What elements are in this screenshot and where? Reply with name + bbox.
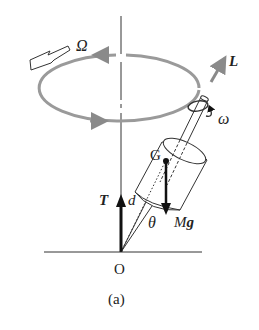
center-of-mass-label: G: [150, 147, 161, 163]
tension-label: T: [99, 192, 109, 208]
angular-momentum-label: L: [228, 53, 238, 69]
distance-label: d: [128, 192, 136, 208]
figure-caption: (a): [108, 291, 125, 308]
weight-g-symbol: g: [186, 214, 195, 230]
precession-orbit: [39, 55, 199, 121]
origin-label: O: [114, 261, 125, 277]
spin-omega-label: ω: [218, 110, 229, 127]
gyroscope-precession-diagram: Ω L G Mg T d θ ω: [0, 0, 259, 330]
precession-direction-arrow: [30, 46, 70, 70]
tension-arrow: [116, 194, 126, 252]
angular-momentum-arrow: [211, 63, 222, 82]
angle-theta-label: θ: [148, 214, 156, 231]
weight-label: Mg: [173, 214, 195, 230]
omega-precession-label: Ω: [76, 37, 88, 54]
